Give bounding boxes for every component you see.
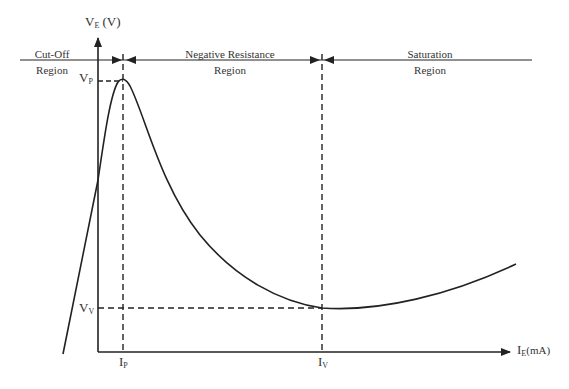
region-label-negative-resistance: Negative Resistance Region [150, 48, 310, 76]
iv-label: IV [318, 356, 328, 372]
x-axis-label: IE(mA) [517, 344, 550, 360]
region-arrow-ip-left [112, 56, 122, 64]
ip-label: IP [119, 356, 128, 372]
characteristic-curve [63, 79, 516, 354]
region-arrow-iv-left [310, 56, 320, 64]
region-label-cutoff: Cut-Off Region [20, 48, 84, 76]
vv-label: VV [79, 302, 94, 318]
region-label-saturation: Saturation Region [380, 48, 480, 76]
y-axis-label: VE (V) [85, 16, 121, 32]
region-arrow-ip-right [126, 56, 136, 64]
region-arrow-iv-right [324, 56, 334, 64]
